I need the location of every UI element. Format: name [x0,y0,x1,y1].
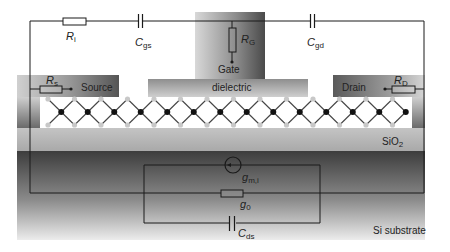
chalcogen-atom [337,122,342,127]
metal-atom [138,109,144,115]
chalcogen-atom [363,96,368,101]
chalcogen-atom [125,122,130,127]
ri-resistor [63,18,86,25]
metal-atom [217,109,223,115]
metal-atom [270,109,276,115]
channel-region [40,97,412,128]
metal-atom [376,109,382,115]
chalcogen-atom [151,122,156,127]
metal-atom [111,109,117,115]
chalcogen-atom [390,122,395,127]
g0-label: g0 [240,199,251,212]
rg-label: RG [241,34,255,47]
chalcogen-atom [284,96,289,101]
rd-label: RD [394,75,408,88]
sio2-label: SiO2 [382,137,403,149]
chalcogen-atom [45,96,50,101]
chalcogen-atom [310,122,315,127]
chalcogen-atom [98,96,103,101]
chalcogen-atom [231,96,236,101]
gm-label: gm,i [242,172,259,185]
chalcogen-atom [178,122,183,127]
metal-atom [85,109,91,115]
fet-diagram: Ri Cgs RG Gate Cgd Rs Source dielectric … [0,0,450,252]
cgd-label: Cgd [307,37,324,50]
drain-terminal-dot [383,87,386,90]
rg-resistor [229,28,236,52]
chalcogen-atom [257,96,262,101]
chalcogen-atom [337,96,342,101]
sio2-layer [17,128,425,151]
si-substrate-label: Si substrate [373,226,426,236]
metal-atom [244,109,250,115]
drain-sidewall [412,97,425,128]
cgs-capacitor [138,14,143,28]
source-terminal-dot [69,87,72,90]
cgd-capacitor [310,14,315,28]
source-sidewall [17,97,40,128]
g0-resistor [221,190,243,197]
metal-atom [191,109,197,115]
chalcogen-atom [98,122,103,127]
cgs-label: Cgs [135,37,151,50]
chalcogen-atom [310,96,315,101]
chalcogen-atom [204,122,209,127]
gate-label: Gate [218,65,240,75]
chalcogen-atom [125,96,130,101]
chalcogen-atom [363,122,368,127]
ri-label: Ri [66,31,76,44]
source-label: Source [81,83,113,93]
metal-atom [323,109,329,115]
chalcogen-atom [204,96,209,101]
chalcogen-atom [45,122,50,127]
chalcogen-atom [390,96,395,101]
metal-atom [58,109,64,115]
chalcogen-atom [257,122,262,127]
chalcogen-atom [72,122,77,127]
chalcogen-atom [151,96,156,101]
chalcogen-atom [72,96,77,101]
metal-atom [297,109,303,115]
metal-atom [403,109,409,115]
metal-atom [164,109,170,115]
chalcogen-atom [284,122,289,127]
rs-label: Rs [46,75,58,88]
cds-label: Cds [238,228,254,241]
drain-label: Drain [342,83,366,93]
chalcogen-atom [231,122,236,127]
dielectric-label: dielectric [212,83,251,93]
chalcogen-atom [178,96,183,101]
metal-atom [350,109,356,115]
